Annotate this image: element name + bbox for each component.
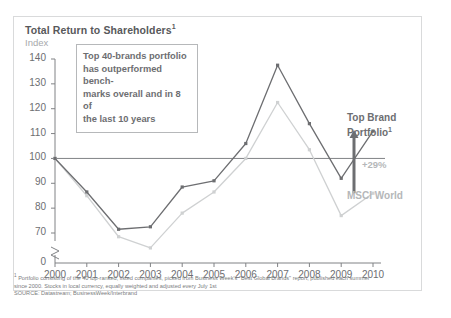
y-axis-tick-label: 120 bbox=[22, 102, 46, 113]
y-axis-tick-label: 70 bbox=[22, 226, 46, 237]
series-label-top-brand-line1: Top Brand bbox=[347, 112, 396, 124]
y-axis-tick-label: 130 bbox=[22, 77, 46, 88]
series-label-top-brand-line2-text: Portfolio bbox=[347, 127, 388, 138]
series-label-top-brand: Top Brand Portfolio1 bbox=[347, 112, 396, 139]
footnote-1: 1 Portfolio consisting of the 40 top-ran… bbox=[14, 272, 434, 282]
callout-line-2: has outperformed bench- bbox=[83, 63, 191, 88]
callout-line-4: the last 10 years bbox=[83, 113, 191, 126]
delta-percent-label: +29% bbox=[362, 159, 387, 170]
y-axis-tick-label: 110 bbox=[22, 127, 46, 138]
chart-card: Total Return to Shareholders1 Index 1401… bbox=[13, 16, 422, 291]
callout-line-1: Top 40-brands portfolio bbox=[83, 50, 191, 63]
y-axis-tick-label: 90 bbox=[22, 176, 46, 187]
y-axis-tick-label: 0 bbox=[22, 256, 46, 267]
footnote-1-line2: since 2000. Stocks in local currency, eq… bbox=[14, 282, 434, 290]
series-label-msci-world: MSCI World bbox=[347, 190, 403, 202]
source-line: SOURCE: Datastream; BusinessWeek/Interbr… bbox=[14, 290, 137, 296]
series-label-superscript: 1 bbox=[388, 126, 392, 133]
footnotes: 1 Portfolio consisting of the 40 top-ran… bbox=[14, 272, 434, 290]
y-axis-tick-label: 80 bbox=[22, 201, 46, 212]
callout-annotation: Top 40-brands portfolio has outperformed… bbox=[76, 44, 198, 133]
footnote-1-marker: 1 bbox=[14, 273, 17, 278]
y-axis-tick-label: 140 bbox=[22, 52, 46, 63]
series-label-top-brand-line2: Portfolio1 bbox=[347, 124, 396, 139]
callout-line-3: marks overall and in 8 of bbox=[83, 88, 191, 113]
y-axis-tick-label: 100 bbox=[22, 151, 46, 162]
footnote-1-line1: Portfolio consisting of the 40 top-ranke… bbox=[18, 275, 370, 281]
delta-arrow-icon bbox=[350, 130, 359, 193]
